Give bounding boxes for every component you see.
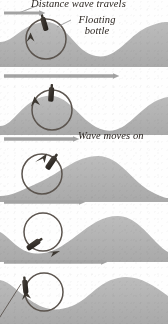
wave-travel-arrow-5 <box>3 256 121 268</box>
floating-bottle <box>22 276 29 294</box>
wave-travel-arrow-4 <box>3 196 99 208</box>
wave-moves-on-label: Wave moves on <box>78 131 144 142</box>
panel-trough <box>0 210 168 262</box>
panel-rising-again <box>0 270 168 324</box>
panel-wave-moves-on <box>0 148 168 202</box>
panel-2-svg <box>0 80 168 135</box>
panel-4-svg <box>0 210 168 262</box>
panel-3-svg <box>0 148 168 202</box>
distance-arrow <box>3 8 51 18</box>
bottle-label-line1: Floating <box>79 14 116 25</box>
panel-rising-slope <box>0 80 168 135</box>
wave-motion-diagram: Distance wave travels Floating bottle <box>0 0 168 324</box>
circular-motion-path <box>25 273 63 311</box>
bottle-label-line2: bottle <box>85 25 110 36</box>
panel-5-svg <box>0 270 168 324</box>
leader-line-bottle <box>55 18 73 30</box>
bottle-label: Floating bottle <box>71 14 123 36</box>
